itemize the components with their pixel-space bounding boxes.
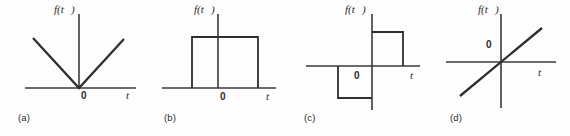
y-axis-label: f(t [54, 3, 65, 16]
x-axis-label: t [126, 89, 130, 101]
origin-label: 0 [354, 70, 360, 81]
y-axis-label: f(t [194, 3, 205, 16]
panel-d: f(t ) 0 t (d) [428, 0, 570, 136]
panel-caption-a: (a) [18, 112, 30, 123]
panel-caption-d: (d) [450, 112, 462, 123]
x-axis-label: t [410, 69, 414, 81]
x-axis-label: t [266, 90, 270, 102]
panel-b: f(t ) 0 t (b) [142, 0, 284, 136]
origin-label: 0 [220, 91, 226, 102]
figure-container: f(t ) 0 t (a) f(t ) 0 t (b) f(t ) 0 t [0, 0, 570, 136]
panel-caption-b: (b) [164, 112, 176, 123]
y-axis-label: f(t [478, 3, 489, 16]
y-axis-label: f(t [345, 3, 356, 16]
panel-caption-c: (c) [304, 112, 316, 123]
curve-positive-block [372, 32, 403, 66]
origin-label: 0 [486, 39, 492, 50]
panel-a: f(t ) 0 t (a) [0, 0, 142, 136]
y-axis-label-close: ) [361, 3, 366, 16]
panel-c: f(t ) 0 t (c) [288, 0, 430, 136]
curve-rect-pulse [192, 37, 258, 88]
y-axis-label-close: ) [494, 3, 499, 16]
x-axis-label: t [538, 66, 542, 78]
y-axis-label-close: ) [70, 3, 75, 16]
origin-label: 0 [81, 90, 87, 101]
y-axis-label-close: ) [210, 3, 215, 16]
